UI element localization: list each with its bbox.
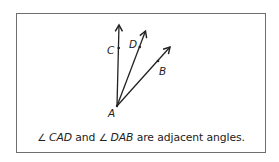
label-c: C [107, 44, 115, 56]
label-b: B [159, 65, 166, 77]
angle-symbol: ∠ [99, 132, 108, 143]
angle-cad: CAD [49, 131, 72, 144]
caption-tail: are adjacent angles. [137, 131, 245, 144]
label-d: D [129, 38, 137, 50]
point-d [139, 46, 142, 49]
caption: ∠CAD and ∠DAB are adjacent angles. [16, 131, 266, 144]
angle-dab: DAB [111, 131, 134, 144]
ray-ac [117, 25, 119, 106]
point-b [157, 60, 160, 63]
caption-connector: and [75, 131, 95, 144]
label-a: A [107, 107, 115, 119]
angle-symbol: ∠ [37, 132, 46, 143]
point-c [117, 47, 120, 50]
vertex-a [116, 105, 118, 107]
